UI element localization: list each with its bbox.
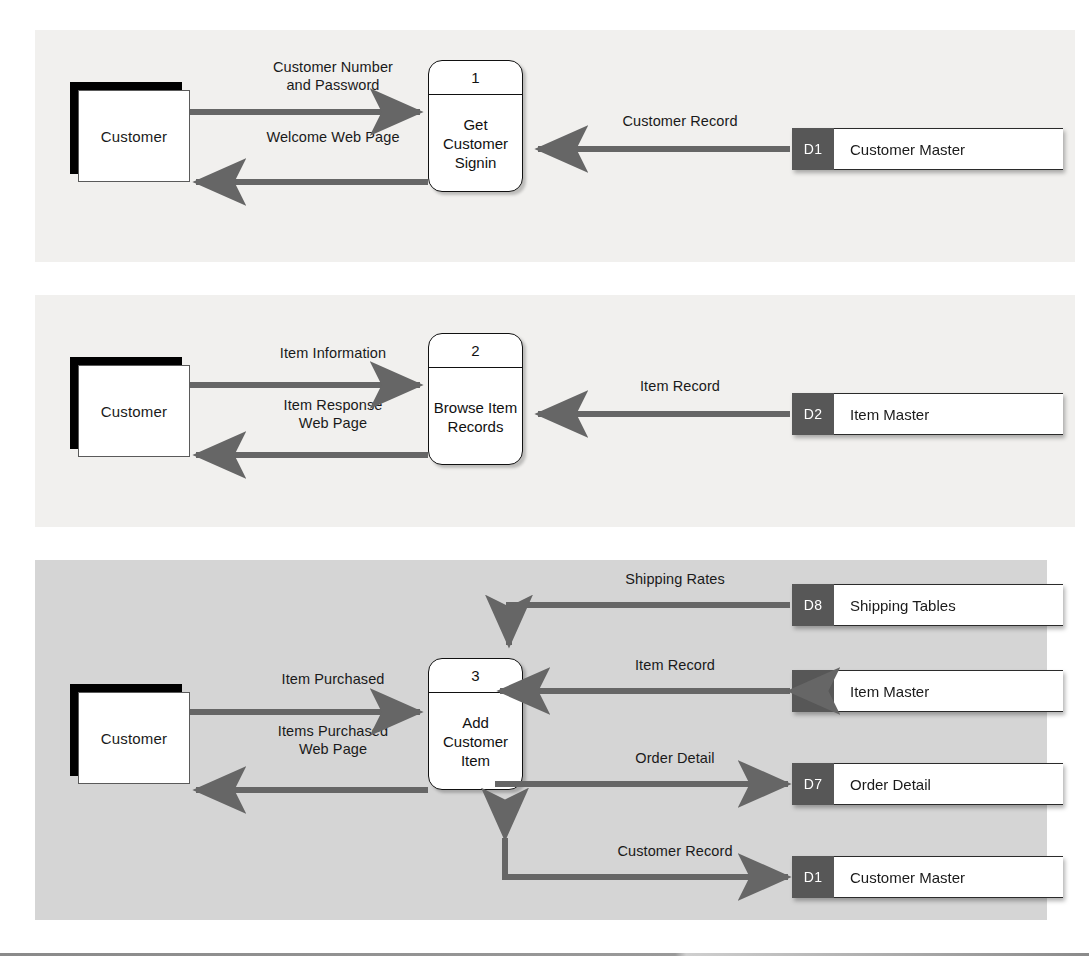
data-store-id: D1: [792, 856, 834, 898]
data-store-id: D1: [792, 128, 834, 170]
flow-label-customer-record: Customer Record: [622, 112, 737, 130]
flow-label-welcome-web-page: Welcome Web Page: [266, 128, 399, 146]
process-number: 3: [429, 659, 522, 693]
data-store-id: D8: [792, 584, 834, 626]
flow-label-item-purchased: Item Purchased: [282, 670, 385, 688]
data-store-id: D2: [792, 393, 834, 435]
entity-face: Customer: [78, 365, 190, 457]
process-number: 2: [429, 334, 522, 368]
data-store-id: D7: [792, 763, 834, 805]
entity-label: Customer: [101, 730, 168, 747]
process-number: 1: [429, 61, 522, 95]
flow-label-item-information: Item Information: [280, 344, 386, 362]
external-entity-customer: Customer: [70, 684, 190, 784]
external-entity-customer: Customer: [70, 357, 190, 457]
data-store-d1: D1 Customer Master: [792, 128, 1063, 170]
flow-label-item-record: Item Record: [640, 377, 720, 395]
data-store-name: Item Master: [834, 393, 1063, 435]
diagram-panel-1: Customer 1 Get Customer Signin D1 Custom…: [35, 30, 1075, 262]
data-store-name: Shipping Tables: [834, 584, 1063, 626]
process-name: Add Customer Item: [429, 693, 522, 790]
flow-label-items-purchased-web-page: Items Purchased Web Page: [278, 722, 388, 758]
entity-face: Customer: [78, 90, 190, 182]
flow-label-shipping-rates: Shipping Rates: [625, 570, 725, 588]
data-store-id: D2: [792, 670, 834, 712]
entity-face: Customer: [78, 692, 190, 784]
process-name: Get Customer Signin: [429, 95, 522, 192]
process-3: 3 Add Customer Item: [428, 658, 523, 790]
page-bottom-rule: [0, 953, 1089, 956]
data-store-d7: D7 Order Detail: [792, 763, 1063, 805]
flow-label-item-response-web-page: Item Response Web Page: [284, 396, 383, 432]
diagram-panel-3: Customer 3 Add Customer Item D8 Shipping…: [35, 560, 1047, 920]
data-store-d2: D2 Item Master: [792, 670, 1063, 712]
data-store-d8: D8 Shipping Tables: [792, 584, 1063, 626]
diagram-panel-2: Customer 2 Browse Item Records D2 Item M…: [35, 295, 1075, 527]
data-store-name: Order Detail: [834, 763, 1063, 805]
process-1: 1 Get Customer Signin: [428, 60, 523, 192]
data-store-name: Customer Master: [834, 856, 1063, 898]
flow-label-customer-number-password: Customer Number and Password: [273, 58, 393, 94]
flow-label-customer-record: Customer Record: [617, 842, 732, 860]
process-name: Browse Item Records: [429, 368, 522, 465]
data-store-name: Customer Master: [834, 128, 1063, 170]
entity-label: Customer: [101, 128, 168, 145]
flow-label-order-detail: Order Detail: [635, 749, 714, 767]
data-store-d1: D1 Customer Master: [792, 856, 1063, 898]
entity-label: Customer: [101, 403, 168, 420]
external-entity-customer: Customer: [70, 82, 190, 182]
flow-label-item-record: Item Record: [635, 656, 715, 674]
process-2: 2 Browse Item Records: [428, 333, 523, 465]
data-flow-diagram-figure: Customer 1 Get Customer Signin D1 Custom…: [0, 0, 1089, 968]
data-store-d2: D2 Item Master: [792, 393, 1063, 435]
data-store-name: Item Master: [834, 670, 1063, 712]
